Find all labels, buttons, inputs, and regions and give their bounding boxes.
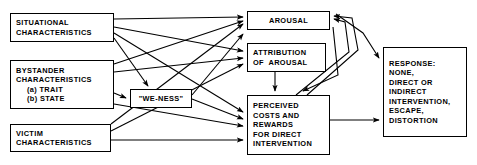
node-label-line: OF AROUSAL [253, 58, 320, 67]
node-label-line: (b) STATE [16, 94, 108, 103]
node-label-line: DISTORTION [389, 116, 461, 125]
node-we-ness: "WE-NESS" [130, 89, 192, 108]
node-label-line: VICTIM [16, 129, 105, 138]
edge-bystander-to-weness [114, 93, 126, 98]
node-label-line: PERCEIVED [253, 101, 324, 110]
flowchart-diagram: SITUATIONALCHARACTERISTICSBYSTANDERCHARA… [0, 0, 477, 165]
node-perceived-costs-and-rewards: PERCEIVEDCOSTS ANDREWARDSFOR DIRECTINTER… [247, 95, 330, 155]
node-label-line: REWARDS [253, 120, 324, 129]
node-situational-characteristics: SITUATIONALCHARACTERISTICS [10, 13, 114, 42]
node-label-line: RESPONSE: [389, 59, 461, 68]
node-label-line: INTERVENTION [253, 139, 324, 148]
node-label-line: "WE-NESS" [135, 94, 187, 103]
node-bystander-characteristics: BYSTANDERCHARACTERISTICS(a) TRAIT(b) STA… [10, 60, 114, 109]
node-label-group: BYSTANDERCHARACTERISTICS(a) TRAIT(b) STA… [11, 66, 113, 104]
edge-situational-to-arousal [114, 17, 243, 19]
node-victim-characteristics: VICTIMCHARACTERISTICS [10, 124, 111, 152]
node-label-group: "WE-NESS" [131, 94, 191, 103]
node-label-line: DIRECT OR [389, 78, 461, 87]
node-attribution-of-arousal: ATTRIBUTIONOF AROUSAL [247, 43, 326, 72]
node-label-line: COSTS AND [253, 111, 324, 120]
node-response: RESPONSE:NONE,DIRECT ORINDIRECTINTERVENT… [383, 47, 467, 137]
node-label-line: (a) TRAIT [16, 85, 108, 94]
node-label-line: NONE, [389, 68, 461, 77]
node-label-group: VICTIMCHARACTERISTICS [11, 129, 110, 148]
node-label-group: ATTRIBUTIONOF AROUSAL [248, 48, 325, 67]
node-label-line: SITUATIONAL [16, 18, 108, 27]
node-label-line: BYSTANDER [16, 66, 108, 75]
edge-weness-to-costs [192, 99, 243, 119]
node-label-line: CHARACTERISTICS [16, 138, 105, 147]
node-label-line: ATTRIBUTION [253, 48, 320, 57]
node-label-line: CHARACTERISTICS [16, 75, 108, 84]
node-label-line: FOR DIRECT [253, 130, 324, 139]
node-label-group: SITUATIONALCHARACTERISTICS [11, 18, 113, 37]
node-label-line: INDIRECT [389, 87, 461, 96]
node-label-line: CHARACTERISTICS [16, 28, 108, 37]
node-label-group: PERCEIVEDCOSTS ANDREWARDSFOR DIRECTINTER… [248, 101, 329, 148]
node-label-group: RESPONSE:NONE,DIRECT ORINDIRECTINTERVENT… [384, 59, 466, 125]
node-label-group: AROUSAL [248, 16, 329, 25]
node-label-line: ESCAPE, [389, 106, 461, 115]
node-arousal: AROUSAL [247, 11, 330, 30]
node-label-line: INTERVENTION, [389, 97, 461, 106]
node-label-line: AROUSAL [252, 16, 325, 25]
edge-arousal-to-response [336, 14, 379, 58]
